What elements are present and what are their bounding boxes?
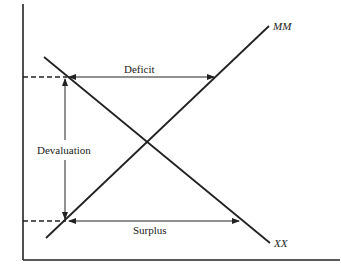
mm-label: MM xyxy=(272,20,292,32)
deficit-label: Deficit xyxy=(124,63,155,75)
devaluation-label: Devaluation xyxy=(37,144,91,156)
mm-curve xyxy=(46,26,269,238)
surplus-label: Surplus xyxy=(133,224,167,236)
balance-of-payments-diagram: MM XX Deficit Surplus Devaluation xyxy=(0,0,341,267)
xx-label: XX xyxy=(273,237,289,249)
